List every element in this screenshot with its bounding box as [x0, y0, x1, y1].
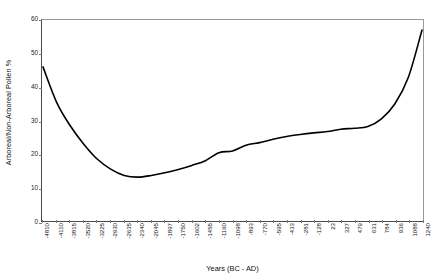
x-tick-label-text: 631 — [371, 223, 377, 233]
y-tick-label: 40 — [18, 83, 38, 89]
y-tick-label: 50 — [18, 50, 38, 56]
y-tick-mark — [39, 122, 42, 123]
x-tick-label-text: -281 — [303, 223, 309, 235]
x-tick-label: -433 — [289, 223, 301, 229]
y-axis-title-text: Arboreal/Non-Arboreal Pollen % — [5, 60, 14, 165]
x-tick-label: 631 — [371, 223, 381, 229]
x-tick-label-text: -128 — [316, 223, 322, 235]
y-tick-mark — [39, 189, 42, 190]
x-tick-label-text: -2635 — [126, 223, 132, 239]
x-tick-label-text: -1160 — [221, 223, 227, 238]
y-tick-label: 10 — [18, 185, 38, 191]
x-tick-label: 784 — [384, 223, 394, 229]
x-tick-label-text: 936 — [398, 223, 404, 233]
x-tick-label: 479 — [357, 223, 367, 229]
x-tick-label: -893 — [248, 223, 260, 229]
data-line-series — [42, 20, 423, 221]
x-tick-label: 23 — [330, 223, 337, 229]
pollen-line-chart: Arboreal/Non-Arboreal Pollen % 010203040… — [0, 0, 444, 280]
pollen-curve-path — [43, 30, 422, 177]
x-tick-label: -595 — [276, 223, 288, 229]
x-tick-label-text: -770 — [262, 223, 268, 235]
x-tick-label-text: -1602 — [194, 223, 200, 239]
y-tick-mark — [39, 88, 42, 89]
x-tick-label-text: -1098 — [235, 223, 241, 239]
x-tick-label: -128 — [316, 223, 328, 229]
y-tick-label: 60 — [18, 16, 38, 22]
x-tick-label-text: -893 — [248, 223, 254, 235]
x-tick-label-text: 784 — [384, 223, 390, 233]
x-tick-label-text: 479 — [357, 223, 363, 233]
x-tick-label-text: -2930 — [112, 223, 118, 239]
plot-area — [41, 19, 424, 222]
y-tick-label: 0 — [18, 219, 38, 225]
x-tick-label-text: -4810 — [44, 223, 50, 239]
x-tick-label: 936 — [398, 223, 408, 229]
x-tick-label: 1240 — [425, 223, 439, 229]
x-axis-tick-labels: -4810-4110-3815-3520-3225-2930-2635-2340… — [41, 223, 424, 263]
x-tick-label: -770 — [262, 223, 274, 229]
x-tick-label: -281 — [303, 223, 315, 229]
x-tick-label-text: 23 — [330, 223, 336, 230]
x-axis-title: Years (BC - AD) — [41, 264, 424, 273]
y-tick-mark — [39, 54, 42, 55]
x-tick-label-text: -2340 — [139, 223, 145, 239]
x-tick-label-text: 1088 — [412, 223, 418, 237]
x-tick-label-text: -1897 — [167, 223, 173, 239]
x-tick-label-text: 1240 — [425, 223, 431, 237]
y-axis-tick-labels: 0102030405060 — [16, 0, 38, 280]
x-tick-label-text: -1455 — [207, 223, 213, 239]
x-tick-label-text: -595 — [276, 223, 282, 235]
x-tick-label-text: 327 — [344, 223, 350, 233]
y-tick-mark — [39, 155, 42, 156]
x-tick-label-text: -1750 — [180, 223, 186, 239]
x-tick-label-text: -3225 — [99, 223, 105, 239]
x-tick-label-text: -433 — [289, 223, 295, 235]
y-tick-mark — [39, 20, 42, 21]
y-tick-label: 30 — [18, 117, 38, 123]
x-tick-label-text: -2045 — [153, 223, 159, 239]
x-tick-label: 327 — [344, 223, 354, 229]
x-tick-label-text: -3520 — [85, 223, 91, 239]
x-tick-label-text: -3815 — [71, 223, 77, 239]
y-tick-label: 20 — [18, 151, 38, 157]
y-axis-title: Arboreal/Non-Arboreal Pollen % — [2, 0, 16, 225]
x-tick-label-text: -4110 — [58, 223, 64, 238]
